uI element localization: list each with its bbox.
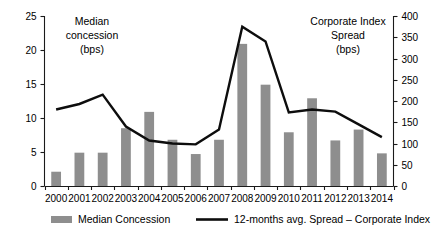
x-axis-tick-labels: 2000200120022003200420052006200720082009… [45, 193, 393, 204]
bar-2014 [377, 153, 387, 186]
right-tick-label: 150 [402, 117, 419, 128]
bar-2010 [284, 132, 294, 186]
right-tick-label: 400 [402, 11, 419, 22]
bar-2009 [261, 85, 271, 186]
right-tick-label: 0 [402, 181, 408, 192]
left-tick-label: 15 [25, 79, 37, 90]
left-axis-tick-labels: 0510152025 [25, 11, 37, 192]
right-axis-title-line1: Corporate Index [310, 15, 386, 27]
bar-2012 [330, 140, 340, 186]
x-tick-label: 2002 [92, 193, 115, 204]
left-tick-label: 0 [31, 181, 37, 192]
x-tick-label: 2009 [254, 193, 277, 204]
right-axis: 050100150200250300350400 [394, 11, 419, 192]
x-tick-label: 2012 [324, 193, 347, 204]
left-axis-title: Median concession (bps) [66, 15, 119, 55]
bar-2006 [191, 154, 201, 186]
x-tick-label: 2001 [68, 193, 91, 204]
x-tick-label: 2006 [185, 193, 208, 204]
x-tick-label: 2005 [161, 193, 184, 204]
bar-2000 [51, 172, 61, 186]
right-tick-label: 100 [402, 139, 419, 150]
left-axis-title-line3: (bps) [80, 43, 104, 55]
right-axis-title-line3: (bps) [336, 43, 360, 55]
legend-label-median-concession: Median Concession [78, 213, 170, 225]
bar-2011 [307, 98, 317, 186]
left-axis-title-line1: Median [75, 15, 110, 27]
right-axis-title-line2: Spread [331, 29, 365, 41]
x-axis: 2000200120022003200420052006200720082009… [45, 186, 395, 204]
left-axis-title-line2: concession [66, 29, 119, 41]
bar-2007 [214, 140, 224, 186]
right-tick-label: 200 [402, 96, 419, 107]
line-series-corporate-index-spread [56, 27, 382, 145]
left-tick-label: 25 [25, 11, 37, 22]
right-axis-tick-labels: 050100150200250300350400 [402, 11, 419, 192]
legend-swatch-median-concession [51, 216, 72, 223]
right-tick-label: 300 [402, 54, 419, 65]
right-tick-label: 250 [402, 75, 419, 86]
legend-label-spread: 12-months avg. Spread – Corporate Index [234, 213, 431, 225]
right-tick-label: 350 [402, 32, 419, 43]
bar-2002 [98, 153, 108, 186]
left-axis-ticks [41, 17, 45, 187]
x-tick-label: 2014 [371, 193, 394, 204]
bar-2001 [75, 153, 85, 186]
x-tick-label: 2010 [278, 193, 301, 204]
x-tick-label: 2007 [208, 193, 231, 204]
chart-svg: 0510152025 050100150200250300350400 2000… [0, 0, 437, 232]
bar-2013 [354, 130, 364, 186]
legend: Median Concession 12-months avg. Spread … [51, 213, 431, 225]
x-tick-label: 2000 [45, 193, 68, 204]
right-axis-ticks [394, 17, 398, 187]
right-axis-title: Corporate Index Spread (bps) [310, 15, 386, 55]
chart-container: 0510152025 050100150200250300350400 2000… [0, 0, 437, 232]
x-tick-label: 2008 [231, 193, 254, 204]
left-tick-label: 5 [31, 147, 37, 158]
x-tick-label: 2013 [347, 193, 370, 204]
left-tick-label: 10 [25, 113, 37, 124]
bar-2008 [237, 44, 247, 186]
bar-series-median-concession [51, 44, 387, 186]
left-tick-label: 20 [25, 45, 37, 56]
bar-2003 [121, 128, 131, 186]
x-tick-label: 2003 [115, 193, 138, 204]
x-tick-label: 2011 [301, 193, 323, 204]
left-axis: 0510152025 [25, 11, 44, 192]
x-tick-label: 2004 [138, 193, 161, 204]
right-tick-label: 50 [402, 160, 414, 171]
bar-2004 [144, 112, 154, 186]
bar-2005 [168, 140, 178, 186]
